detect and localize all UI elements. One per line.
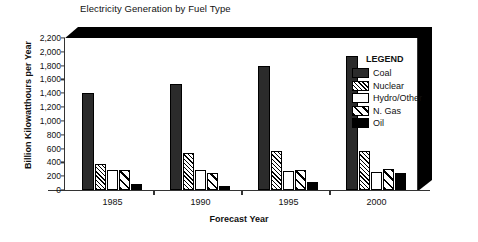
bar-1995-ngas: [295, 170, 307, 190]
y-tick-mark: [61, 189, 65, 190]
bar-2000-nuclear: [359, 151, 371, 190]
y-tick-mark: [61, 93, 65, 94]
bar-2000-ngas: [383, 169, 395, 190]
bar-1990-hydroother: [195, 170, 207, 190]
legend-label: Hydro/Other: [373, 93, 422, 103]
bar-1985-coal: [82, 93, 94, 190]
x-tick-mark: [329, 190, 330, 195]
x-tick-label-1990: 1990: [190, 197, 210, 207]
legend-swatch-icon: [352, 106, 369, 116]
bar-1995-nuclear: [271, 151, 283, 190]
x-tick-mark: [153, 190, 154, 195]
bar-1985-nuclear: [95, 164, 107, 190]
y-tick-label: 200: [47, 171, 61, 181]
legend-item-oil: Oil: [352, 117, 432, 130]
x-tick-mark: [241, 190, 242, 195]
bar-1985-ngas: [119, 170, 131, 190]
bar-1990-ngas: [207, 173, 219, 190]
y-tick-label: 1,400: [40, 88, 61, 98]
legend-entries: CoalNuclearHydro/OtherN. GasOil: [352, 67, 432, 130]
y-tick-mark: [61, 176, 65, 177]
y-tick-label: 600: [47, 144, 61, 154]
bar-chart: Electricity Generation by Fuel Type Bill…: [0, 0, 478, 242]
x-tick-label-1995: 1995: [278, 197, 298, 207]
y-tick-mark: [61, 134, 65, 135]
legend-swatch-icon: [352, 68, 369, 78]
bar-group-1995: [258, 38, 318, 190]
y-tick-mark: [61, 106, 65, 107]
y-tick-mark: [61, 120, 65, 121]
legend-swatch-icon: [352, 118, 369, 128]
legend-item-coal: Coal: [352, 67, 432, 80]
y-tick-label: 1,000: [40, 116, 61, 126]
bar-1985-hydroother: [107, 170, 119, 190]
y-tick-label: 2,200: [40, 33, 61, 43]
y-axis-ticks: 02004006008001,0001,2001,4001,6001,8002,…: [0, 0, 61, 242]
y-tick-mark: [61, 51, 65, 52]
y-tick-label: 1,600: [40, 74, 61, 84]
legend-item-nuclear: Nuclear: [352, 80, 432, 93]
y-tick-label: 800: [47, 130, 61, 140]
bar-1990-oil: [219, 186, 231, 190]
legend-item-hydroother: Hydro/Other: [352, 92, 432, 105]
bar-1990-nuclear: [183, 153, 195, 190]
chart-title: Electricity Generation by Fuel Type: [80, 3, 231, 14]
legend-title: LEGEND: [366, 54, 432, 64]
legend-label: Nuclear: [373, 81, 404, 91]
y-tick-mark: [61, 162, 65, 163]
y-tick-mark: [61, 65, 65, 66]
bar-group-1990: [170, 38, 230, 190]
bar-1995-oil: [307, 182, 319, 190]
bar-1990-coal: [170, 84, 182, 190]
y-tick-label: 1,800: [40, 61, 61, 71]
x-axis-title: Forecast Year: [0, 214, 478, 224]
bar-2000-hydroother: [371, 172, 383, 190]
x-axis-baseline: [48, 190, 430, 191]
legend-label: Oil: [373, 118, 384, 128]
legend-swatch-icon: [352, 81, 369, 91]
bar-group-1985: [82, 38, 142, 190]
bar-2000-oil: [395, 173, 407, 190]
y-tick-label: 1,200: [40, 102, 61, 112]
legend-label: Coal: [373, 68, 392, 78]
y-tick-mark: [61, 37, 65, 38]
y-tick-label: 2,000: [40, 47, 61, 57]
x-tick-label-2000: 2000: [366, 197, 386, 207]
legend-item-ngas: N. Gas: [352, 105, 432, 118]
y-tick-mark: [61, 148, 65, 149]
x-tick-label-1985: 1985: [102, 197, 122, 207]
legend: LEGEND CoalNuclearHydro/OtherN. GasOil: [352, 54, 432, 130]
bar-1995-hydroother: [283, 171, 295, 190]
bar-1995-coal: [258, 66, 270, 190]
bar-1985-oil: [131, 184, 143, 190]
legend-swatch-icon: [352, 93, 369, 103]
y-tick-mark: [61, 79, 65, 80]
legend-label: N. Gas: [373, 106, 401, 116]
y-tick-label: 400: [47, 157, 61, 167]
